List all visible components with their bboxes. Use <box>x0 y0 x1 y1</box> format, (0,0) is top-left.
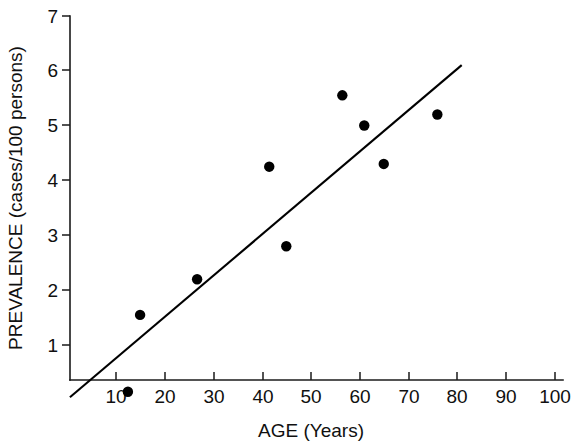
y-axis-title: PREVALENCE (cases/100 persons) <box>5 46 26 350</box>
data-point <box>264 161 274 171</box>
x-tick-label: 80 <box>446 386 467 407</box>
x-tick-label: 90 <box>495 386 516 407</box>
y-tick-label: 5 <box>47 115 58 136</box>
scatter-plot-figure: 7 6 5 4 3 2 1 10 20 30 40 50 <box>0 0 571 443</box>
x-tick-label: 40 <box>252 386 273 407</box>
data-point <box>359 120 369 130</box>
y-tick-label: 6 <box>47 60 58 81</box>
y-tick-label: 3 <box>47 225 58 246</box>
data-point <box>432 109 442 119</box>
x-tick-label: 60 <box>349 386 370 407</box>
plot-canvas: 7 6 5 4 3 2 1 10 20 30 40 50 <box>0 0 571 443</box>
regression-line <box>70 65 462 397</box>
y-tick-label: 7 <box>47 6 58 27</box>
x-axis-title: AGE (Years) <box>258 420 364 441</box>
y-tick-label: 1 <box>47 335 58 356</box>
y-axis-ticks <box>62 16 70 345</box>
x-axis-ticks <box>116 372 555 380</box>
data-points-group <box>123 90 443 397</box>
y-tick-label: 2 <box>47 280 58 301</box>
y-axis-tick-labels: 7 6 5 4 3 2 1 <box>47 6 58 356</box>
x-tick-label: 100 <box>539 386 571 407</box>
x-axis-tick-labels: 10 20 30 40 50 60 70 80 90 100 <box>105 386 570 407</box>
x-tick-label: 50 <box>300 386 321 407</box>
x-tick-label: 20 <box>154 386 175 407</box>
data-point <box>135 310 145 320</box>
data-point <box>379 159 389 169</box>
y-tick-label: 4 <box>47 170 58 191</box>
data-point <box>192 274 202 284</box>
x-tick-label: 10 <box>105 386 126 407</box>
data-point <box>281 241 291 251</box>
data-point <box>123 387 133 397</box>
x-tick-label: 70 <box>398 386 419 407</box>
data-point <box>337 90 347 100</box>
x-tick-label: 30 <box>203 386 224 407</box>
